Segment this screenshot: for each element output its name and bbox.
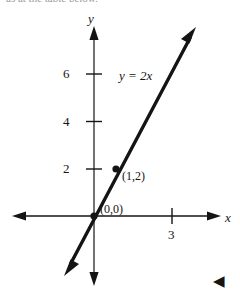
x-axis-label: x <box>225 211 231 224</box>
y-tick-label-6: 6 <box>63 67 70 80</box>
y-axis-top-arrowhead <box>89 26 98 40</box>
origin-label: (0,0) <box>100 203 123 215</box>
point-1-2-label: (1,2) <box>122 170 145 182</box>
y-tick-label-2: 2 <box>63 162 70 175</box>
section-end-triangle-icon: ◀ <box>213 274 225 289</box>
line-upper-arrowhead <box>181 27 196 44</box>
point-marker-1-2 <box>112 165 119 172</box>
figure-page: as at the table below. y x 6 4 <box>0 0 240 298</box>
line-lower-arrowhead <box>64 260 79 277</box>
x-axis-left-arrowhead <box>12 211 26 220</box>
y-axis-label: y <box>88 12 94 25</box>
coordinate-plane-graph <box>0 0 240 298</box>
y-tick-label-4: 4 <box>63 115 70 128</box>
x-tick-label-3: 3 <box>168 228 175 241</box>
y-axis-bottom-arrowhead <box>89 272 98 286</box>
equation-label: y = 2x <box>119 69 152 82</box>
point-marker-origin <box>90 212 97 219</box>
x-axis-right-arrowhead <box>207 211 221 220</box>
